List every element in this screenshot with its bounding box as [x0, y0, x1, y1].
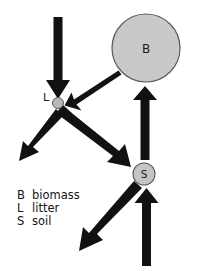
- arrow-biomass-to-litter: [65, 71, 122, 111]
- legend-key-litter: L: [17, 201, 24, 215]
- node-biomass-label: B: [142, 42, 150, 56]
- arrow-litter-to-soil: [56, 105, 131, 167]
- arrow-input-to-litter: [46, 17, 70, 99]
- node-litter[interactable]: [53, 98, 64, 109]
- arrow-soil-to-biomass: [133, 86, 157, 160]
- legend-key-biomass: B: [17, 188, 25, 202]
- legend-label-biomass: biomass: [32, 188, 80, 202]
- node-litter-label: L: [43, 91, 50, 104]
- node-soil-label: S: [141, 168, 148, 180]
- legend: B biomass L litter S soil: [17, 188, 80, 228]
- carbon-flow-diagram: B L S B biomass L litter S soil: [0, 0, 197, 271]
- arrow-litter-loss: [19, 109, 63, 161]
- node-soil[interactable]: S: [133, 163, 155, 185]
- legend-row-litter: L litter: [17, 201, 59, 215]
- legend-row-biomass: B biomass: [17, 188, 80, 202]
- node-biomass[interactable]: B: [112, 14, 180, 82]
- arrow-input-to-soil: [135, 188, 159, 266]
- legend-label-soil: soil: [32, 214, 51, 228]
- legend-label-litter: litter: [32, 201, 59, 215]
- arrow-soil-loss: [79, 181, 142, 251]
- legend-row-soil: S soil: [17, 214, 51, 228]
- diagram-canvas: B L S B biomass L litter S soil: [0, 0, 197, 271]
- legend-key-soil: S: [17, 214, 24, 228]
